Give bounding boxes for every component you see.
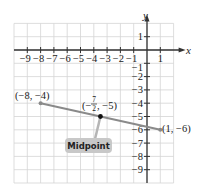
x-tick-label: −7: [46, 53, 57, 64]
x-tick-label: 1: [158, 53, 163, 64]
y-tick-label: −8: [132, 151, 143, 162]
midpoint-dot: [98, 114, 103, 119]
y-tick-label: −7: [132, 138, 143, 149]
y-tick-label: −5: [132, 111, 143, 122]
midpoint-label-close: , −5): [97, 100, 117, 112]
y-tick-label: −9: [132, 164, 143, 175]
x-tick-label: −3: [100, 53, 111, 64]
x-tick-label: −8: [33, 53, 44, 64]
x-axis-arrow-icon: [179, 48, 186, 53]
midpoint-label-denominator: 2: [92, 104, 96, 113]
y-axis-label: y: [142, 9, 148, 21]
midpoint-label-open: (−: [82, 100, 91, 112]
y-tick-label: 1: [138, 31, 143, 42]
endpoint-a: [39, 101, 43, 105]
x-tick-label: −4: [86, 53, 98, 64]
point-b-label: (1, −6): [162, 123, 191, 135]
x-tick-label: −9: [20, 53, 31, 64]
midpoint-label: (− 7 2 , −5): [82, 95, 117, 113]
y-tick-label: −4: [132, 98, 144, 109]
x-tick-label: −6: [60, 53, 71, 64]
y-tick-label: −3: [132, 84, 143, 95]
midpoint-callout-text: Midpoint: [67, 141, 109, 151]
coordinate-plane: −9−8−7−6−5−4−3−2−11 1−1−2−3−4−5−6−7−8−9 …: [0, 0, 199, 193]
x-axis-label: x: [185, 44, 191, 56]
point-a-label: (−8, −4): [15, 90, 50, 102]
x-tick-label: −5: [73, 53, 84, 64]
callout-leader: [95, 117, 100, 140]
y-tick-label: −2: [132, 71, 143, 82]
x-tick-label: −2: [113, 53, 124, 64]
midpoint-label-numerator: 7: [92, 95, 96, 104]
